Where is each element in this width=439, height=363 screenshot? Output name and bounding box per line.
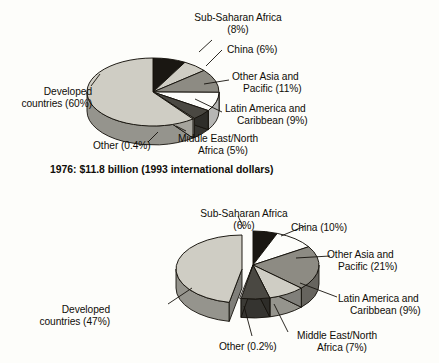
- label-text-line2: Pacific (11%): [232, 83, 302, 95]
- figure-root: Sub-Saharan Africa (8%) China (6%) Other…: [0, 0, 439, 363]
- label-text-line2: Caribbean (9%): [338, 305, 421, 317]
- label-text-line1: Sub-Saharan Africa: [174, 12, 302, 24]
- label-other-asia-pacific-top: Other Asia and Pacific (11%): [232, 71, 302, 94]
- label-text-line1: Developed: [18, 304, 110, 316]
- label-text-line1: Middle East/North: [297, 330, 377, 342]
- label-sub-saharan-africa-bottom: Sub-Saharan Africa (6%): [180, 208, 308, 231]
- label-text-line1: Latin America and: [225, 103, 308, 115]
- label-text-line2: Caribbean (9%): [225, 115, 308, 127]
- label-text-line1: China (6%): [227, 44, 277, 56]
- label-text-line1: Other Asia and: [327, 249, 397, 261]
- label-other-top: Other (0.4%): [93, 140, 151, 152]
- label-latin-america-caribbean-top: Latin America and Caribbean (9%): [225, 103, 308, 126]
- label-other-bottom: Other (0.2%): [219, 341, 277, 353]
- label-middle-east-north-africa-top: Middle East/North Africa (5%): [178, 133, 258, 156]
- label-text-line2: Pacific (21%): [327, 261, 397, 273]
- label-developed-countries-top: Developed countries (60%): [0, 86, 92, 109]
- label-middle-east-north-africa-bottom: Middle East/North Africa (7%): [297, 330, 377, 353]
- label-latin-america-caribbean-bottom: Latin America and Caribbean (9%): [338, 293, 421, 316]
- label-text-line2: countries (60%): [0, 98, 92, 110]
- label-text-line1: Latin America and: [338, 293, 421, 305]
- label-developed-countries-bottom: Developed countries (47%): [18, 304, 110, 327]
- label-text-line2: countries (47%): [18, 316, 110, 328]
- label-text-line1: Sub-Saharan Africa: [180, 208, 308, 220]
- label-text-line1: China (10%): [291, 222, 347, 234]
- label-text-line1: Other Asia and: [232, 71, 302, 83]
- label-text-line2: (8%): [174, 24, 302, 36]
- label-china-top: China (6%): [227, 44, 277, 56]
- label-text-line1: Middle East/North: [178, 133, 258, 145]
- label-text-line1: Other (0.4%): [93, 140, 151, 152]
- label-other-asia-pacific-bottom: Other Asia and Pacific (21%): [327, 249, 397, 272]
- label-text-line2: (6%): [180, 220, 308, 232]
- label-china-bottom: China (10%): [291, 222, 347, 234]
- label-text-line1: Developed: [0, 86, 92, 98]
- label-text-line2: Africa (7%): [297, 342, 377, 354]
- label-sub-saharan-africa-top: Sub-Saharan Africa (8%): [174, 12, 302, 35]
- label-text-line2: Africa (5%): [178, 145, 258, 157]
- caption-1976: 1976: $11.8 billion (1993 international …: [50, 164, 273, 175]
- label-text-line1: Other (0.2%): [219, 341, 277, 353]
